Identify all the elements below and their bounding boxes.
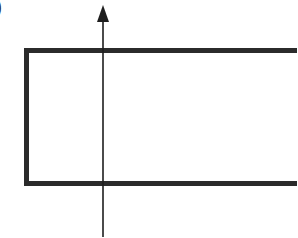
arrow-up-icon bbox=[97, 5, 109, 22]
diagram-canvas bbox=[0, 0, 297, 238]
rectangle-outline bbox=[27, 51, 298, 184]
rectangle-shape bbox=[27, 51, 298, 184]
vertical-arrow bbox=[97, 5, 109, 237]
